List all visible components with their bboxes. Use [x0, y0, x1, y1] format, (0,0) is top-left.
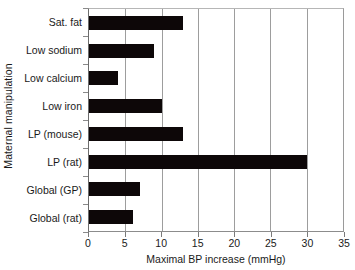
- x-axis-tick-label: 30: [302, 238, 314, 249]
- bar-row: [89, 203, 343, 231]
- bar-chart-figure: Maternal manipulation Sat. fatLow sodium…: [0, 0, 355, 270]
- y-axis-tick-label: Low iron: [14, 92, 86, 120]
- bar: [89, 99, 162, 113]
- y-axis-tick-label: Sat. fat: [14, 8, 86, 36]
- y-axis-tick-labels: Sat. fatLow sodiumLow calciumLow ironLP …: [14, 8, 86, 232]
- y-axis-tick-label: Global (GP): [14, 176, 86, 204]
- bar-row: [89, 65, 343, 93]
- bar-row: [89, 176, 343, 204]
- x-axis-tick-label: 20: [228, 238, 240, 249]
- y-axis-tick-label: Low calcium: [14, 64, 86, 92]
- bar: [89, 16, 183, 30]
- bar-row: [89, 9, 343, 37]
- x-axis-title: Maximal BP increase (mmHg): [88, 253, 344, 265]
- bar: [89, 71, 118, 85]
- x-axis-tick-label: 5: [122, 238, 128, 249]
- y-axis-tick-label: Global (rat): [14, 204, 86, 232]
- x-axis-tick-label: 0: [85, 238, 91, 249]
- bar-row: [89, 120, 343, 148]
- x-axis-tick-label: 15: [192, 238, 204, 249]
- bar: [89, 182, 140, 196]
- bar: [89, 44, 154, 58]
- bar: [89, 210, 133, 224]
- bar-row: [89, 92, 343, 120]
- bar-row: [89, 37, 343, 65]
- y-axis-tick-label: LP (rat): [14, 148, 86, 176]
- bar-series: [89, 9, 343, 231]
- plot-area: [88, 8, 344, 232]
- bar: [89, 127, 183, 141]
- x-axis-tick-label: 35: [338, 238, 350, 249]
- x-axis-tick-label: 25: [265, 238, 277, 249]
- bar-row: [89, 148, 343, 176]
- x-axis-tick-label: 10: [155, 238, 167, 249]
- x-axis-tick-labels: 05101520253035: [88, 238, 344, 252]
- y-axis-title-text: Maternal manipulation: [2, 63, 14, 168]
- bar: [89, 155, 307, 169]
- y-axis-tick-label: Low sodium: [14, 36, 86, 64]
- y-axis-tick-label: LP (mouse): [14, 120, 86, 148]
